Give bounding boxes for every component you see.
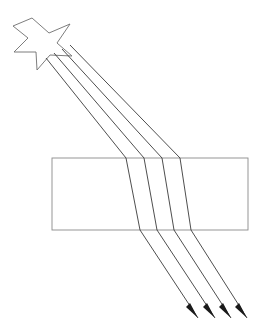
refraction-diagram-canvas (0, 0, 266, 327)
refraction-diagram-svg (0, 0, 266, 327)
